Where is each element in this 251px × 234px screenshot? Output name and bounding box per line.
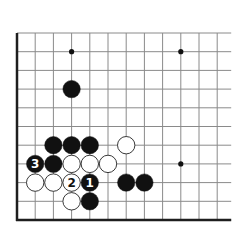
white-stone: [118, 137, 135, 154]
white-stone: [81, 155, 98, 172]
go-board-diagram: 321: [0, 0, 251, 234]
black-stone: [136, 174, 153, 191]
black-stone: [81, 137, 98, 154]
star-point-icon: [178, 49, 183, 54]
black-stone: [45, 155, 62, 172]
black-stone: [63, 137, 80, 154]
move-number-label: 3: [31, 157, 39, 171]
white-stone: [99, 155, 116, 172]
white-stone: [45, 174, 62, 191]
white-stone: [63, 155, 80, 172]
star-point-icon: [178, 161, 183, 166]
black-stone: 1: [81, 174, 98, 191]
move-number-label: 2: [67, 176, 75, 190]
move-number-label: 1: [86, 176, 94, 190]
white-stone: 2: [63, 174, 80, 191]
black-stone: [118, 174, 135, 191]
black-stone: [63, 80, 80, 97]
black-stone: [45, 137, 62, 154]
white-stone: [63, 193, 80, 210]
star-point-icon: [69, 49, 74, 54]
black-stone: 3: [27, 155, 44, 172]
black-stone: [81, 193, 98, 210]
grid-lines: [17, 33, 231, 220]
white-stone: [27, 174, 44, 191]
